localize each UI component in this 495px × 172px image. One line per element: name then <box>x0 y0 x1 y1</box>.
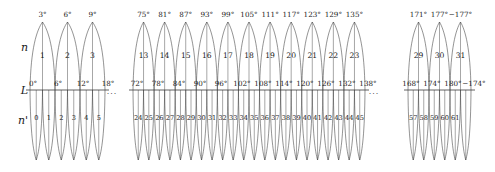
arc-flank-left <box>154 90 159 160</box>
arc-flank-right <box>86 90 92 160</box>
arc-flank-right <box>360 90 365 160</box>
arc-flank-left <box>450 90 455 160</box>
peak-degree-label: 99° <box>222 11 235 18</box>
baseline-degree-label: 96° <box>215 80 228 87</box>
upper-index-number: 22 <box>329 52 339 60</box>
lower-index-number: 41 <box>313 115 321 122</box>
arc-flank-right <box>339 90 344 160</box>
arc-flank-right <box>413 90 418 160</box>
arc-flank-right <box>233 90 238 160</box>
arc-flank-left <box>429 90 434 160</box>
arc-flank-left <box>270 90 275 160</box>
lower-arc <box>154 90 165 160</box>
arc-flank-left <box>144 90 149 160</box>
arc-flank-left <box>43 90 49 160</box>
lower-index-number: 2 <box>59 115 63 122</box>
arc-flank-right <box>202 90 207 160</box>
lower-index-number: 44 <box>345 115 353 122</box>
arc-flank-right <box>74 90 80 160</box>
upper-index-number: 17 <box>223 52 233 60</box>
lower-arc <box>302 90 313 160</box>
ellipsis-gap: ... <box>369 88 380 96</box>
upper-index-number: 14 <box>160 52 170 60</box>
arc-flank-right <box>445 90 450 160</box>
lower-index-number: 43 <box>334 115 342 122</box>
lower-arc <box>260 90 271 160</box>
upper-index-number: 23 <box>350 52 360 60</box>
lower-arc <box>323 90 334 160</box>
lower-arc <box>186 90 197 160</box>
arc-flank-left <box>30 90 36 160</box>
lower-index-number: 42 <box>324 115 332 122</box>
lower-index-number: 45 <box>356 115 364 122</box>
arc-flank-left <box>80 90 86 160</box>
lower-arc <box>93 90 106 160</box>
peak-degree-label: 6° <box>63 11 71 18</box>
lower-arc <box>281 90 292 160</box>
arc-flank-left <box>186 90 191 160</box>
lower-arc <box>333 90 344 160</box>
baseline-degree-label: 114° <box>275 80 292 87</box>
arc-flank-right <box>180 90 185 160</box>
arc-flank-right <box>191 90 196 160</box>
baseline-degree-label: 120° <box>296 80 313 87</box>
arc-flank-left <box>333 90 338 160</box>
lower-arc <box>228 90 239 160</box>
arc-flank-right <box>466 90 471 160</box>
arc-flank-left <box>408 90 413 160</box>
lower-arc <box>30 90 43 160</box>
baseline-degree-label: 132° <box>338 80 355 87</box>
arc-flank-right <box>424 90 429 160</box>
arc-flank-left <box>419 90 424 160</box>
row-label-n-prime: n' <box>18 115 28 126</box>
lower-arc <box>238 90 249 160</box>
peak-degree-label: 171° <box>410 11 427 18</box>
arc-flank-left <box>461 90 466 160</box>
peak-degree-label: 9° <box>88 11 96 18</box>
arc-flank-left <box>175 90 180 160</box>
arc-flank-right <box>265 90 270 160</box>
upper-index-number: 1 <box>40 52 45 60</box>
lower-index-number: 31 <box>208 115 216 122</box>
lower-index-number: 39 <box>292 115 300 122</box>
arc-flank-right <box>254 90 259 160</box>
lower-index-number: 24 <box>134 115 142 122</box>
lower-index-number: 33 <box>229 115 237 122</box>
lower-index-number: 28 <box>176 115 184 122</box>
lower-index-number: 38 <box>282 115 290 122</box>
peak-degree-label: 135° <box>346 11 363 18</box>
baseline-degree-label: 84° <box>173 80 186 87</box>
lower-arc <box>55 90 68 160</box>
arc-flank-right <box>434 90 439 160</box>
upper-index-number: 18 <box>244 52 254 60</box>
lower-index-number: 37 <box>271 115 279 122</box>
lower-index-number: 36 <box>261 115 269 122</box>
arc-flank-left <box>302 90 307 160</box>
peak-degree-label: −177° <box>449 11 472 18</box>
lower-arc <box>80 90 93 160</box>
peak-degree-label: 3° <box>38 11 46 18</box>
arc-flank-right <box>275 90 280 160</box>
arc-flank-right <box>159 90 164 160</box>
arc-flank-left <box>312 90 317 160</box>
lower-arc <box>344 90 355 160</box>
arc-flank-right <box>296 90 301 160</box>
lower-arc <box>165 90 176 160</box>
lower-index-number: 40 <box>303 115 311 122</box>
lower-arc <box>43 90 56 160</box>
row-label-n: n <box>21 42 28 53</box>
peak-degree-label: 111° <box>261 11 278 18</box>
upper-index-number: 20 <box>286 52 296 60</box>
arc-flank-right <box>149 90 154 160</box>
peak-degree-label: 75° <box>137 11 150 18</box>
upper-index-number: 13 <box>139 52 149 60</box>
lower-index-number: 60 <box>441 115 449 122</box>
upper-index-number: 30 <box>435 52 445 60</box>
peak-degree-label: 123° <box>304 11 321 18</box>
lower-index-number: 34 <box>240 115 248 122</box>
arc-flank-right <box>138 90 143 160</box>
arc-flank-left <box>68 90 74 160</box>
baseline-degree-label: 108° <box>254 80 271 87</box>
baseline-degree-label: 78° <box>152 80 165 87</box>
lower-arc <box>249 90 260 160</box>
